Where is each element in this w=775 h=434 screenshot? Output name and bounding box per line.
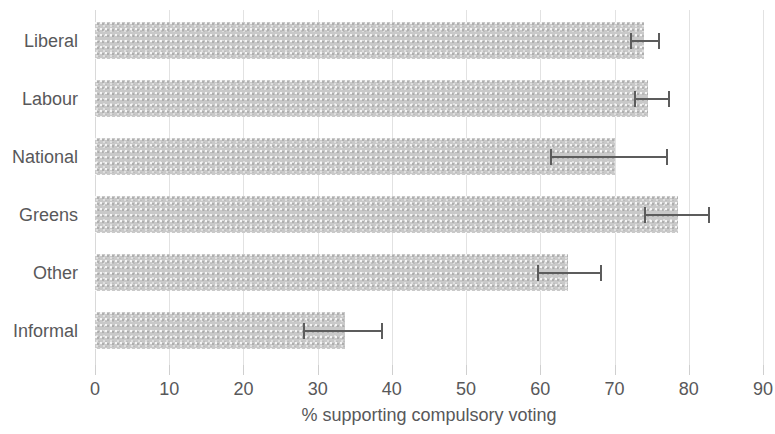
error-bar-other bbox=[537, 272, 602, 273]
x-tick-0 bbox=[95, 365, 96, 375]
x-tick-70 bbox=[615, 365, 616, 375]
x-tick-label-40: 40 bbox=[362, 380, 422, 398]
x-tick-90 bbox=[763, 365, 764, 375]
error-bar-cap-high bbox=[668, 91, 670, 107]
x-axis-ticks bbox=[95, 365, 763, 377]
error-bar-cap-low bbox=[537, 265, 539, 281]
bar-national bbox=[95, 138, 615, 175]
error-bar-cap-high bbox=[600, 265, 602, 281]
x-tick-80 bbox=[689, 365, 690, 375]
error-bar-line bbox=[537, 272, 602, 274]
x-tick-label-70: 70 bbox=[585, 380, 645, 398]
bar-liberal bbox=[95, 22, 644, 59]
x-tick-label-10: 10 bbox=[139, 380, 199, 398]
x-tick-label-80: 80 bbox=[659, 380, 719, 398]
x-tick-label-50: 50 bbox=[436, 380, 496, 398]
gridline-90 bbox=[763, 10, 764, 372]
x-axis-title: % supporting compulsory voting bbox=[95, 406, 763, 424]
error-bar-line bbox=[634, 98, 670, 100]
error-bar-greens bbox=[644, 214, 710, 215]
bar-row bbox=[95, 312, 763, 349]
error-bar-liberal bbox=[630, 40, 660, 41]
y-axis-label-labour: Labour bbox=[0, 90, 78, 108]
error-bar-line bbox=[630, 40, 660, 42]
x-axis-tick-labels: 0102030405060708090 bbox=[0, 380, 775, 404]
x-tick-40 bbox=[392, 365, 393, 375]
error-bar-cap-high bbox=[381, 323, 383, 339]
bar-other bbox=[95, 254, 568, 291]
y-axis-label-liberal: Liberal bbox=[0, 32, 78, 50]
error-bar-cap-high bbox=[708, 207, 710, 223]
x-tick-30 bbox=[318, 365, 319, 375]
bar-row bbox=[95, 196, 763, 233]
x-tick-10 bbox=[169, 365, 170, 375]
y-axis-label-informal: Informal bbox=[0, 322, 78, 340]
x-tick-label-0: 0 bbox=[65, 380, 125, 398]
error-bar-informal bbox=[303, 330, 383, 331]
bar-labour bbox=[95, 80, 648, 117]
error-bar-line bbox=[550, 156, 668, 158]
x-tick-label-90: 90 bbox=[733, 380, 775, 398]
bar-row bbox=[95, 80, 763, 117]
error-bar-cap-low bbox=[630, 33, 632, 49]
error-bar-cap-high bbox=[666, 149, 668, 165]
bar-row bbox=[95, 254, 763, 291]
error-bar-line bbox=[644, 214, 710, 216]
error-bar-cap-high bbox=[658, 33, 660, 49]
y-axis-label-national: National bbox=[0, 148, 78, 166]
y-axis-label-other: Other bbox=[0, 264, 78, 282]
x-tick-label-20: 20 bbox=[213, 380, 273, 398]
error-bar-cap-low bbox=[644, 207, 646, 223]
x-tick-20 bbox=[243, 365, 244, 375]
bar-row bbox=[95, 138, 763, 175]
x-tick-50 bbox=[466, 365, 467, 375]
error-bar-national bbox=[550, 156, 668, 157]
plot-area bbox=[95, 10, 763, 365]
bar-chart: LiberalLabourNationalGreensOtherInformal… bbox=[0, 0, 775, 434]
y-axis-tick-labels: LiberalLabourNationalGreensOtherInformal bbox=[0, 10, 78, 365]
bar-row bbox=[95, 22, 763, 59]
x-tick-label-30: 30 bbox=[288, 380, 348, 398]
error-bar-cap-low bbox=[550, 149, 552, 165]
x-tick-60 bbox=[540, 365, 541, 375]
bar-greens bbox=[95, 196, 678, 233]
y-axis-label-greens: Greens bbox=[0, 206, 78, 224]
error-bar-cap-low bbox=[303, 323, 305, 339]
error-bar-cap-low bbox=[634, 91, 636, 107]
x-tick-label-60: 60 bbox=[510, 380, 570, 398]
error-bar-line bbox=[303, 330, 383, 332]
error-bar-labour bbox=[634, 98, 670, 99]
